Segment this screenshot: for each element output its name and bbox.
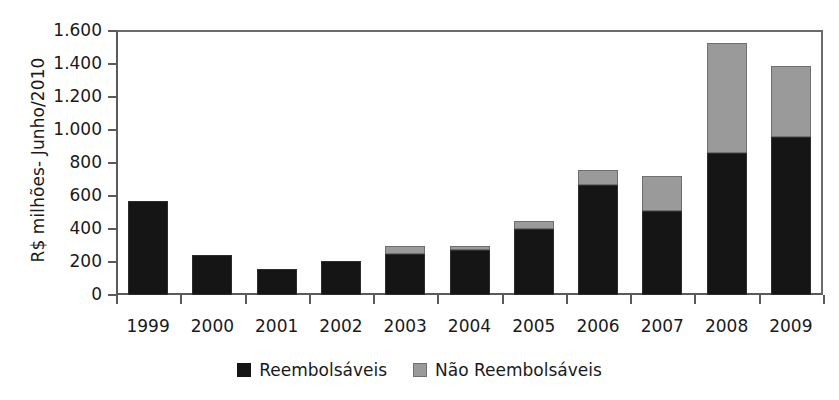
bar-2006 bbox=[578, 170, 618, 295]
bar-segment-reembolsaveis bbox=[257, 269, 297, 295]
bar-segment-reembolsaveis bbox=[771, 137, 811, 295]
chart-legend: Reembolsáveis Não Reembolsáveis bbox=[0, 360, 839, 380]
bar-segment-reembolsaveis bbox=[578, 185, 618, 295]
x-axis-tick bbox=[566, 295, 568, 304]
bar-segment-nao-reembolsaveis bbox=[514, 221, 554, 229]
x-axis-tick bbox=[630, 295, 632, 304]
bar-2001 bbox=[257, 269, 297, 295]
black-square-icon bbox=[237, 363, 251, 377]
bar-segment-reembolsaveis bbox=[707, 153, 747, 295]
x-axis-tick-label: 2008 bbox=[697, 316, 757, 336]
bar-segment-nao-reembolsaveis bbox=[385, 246, 425, 254]
x-axis-tick-label: 1999 bbox=[118, 316, 178, 336]
bar-1999 bbox=[128, 201, 168, 295]
y-axis-tick bbox=[108, 30, 117, 32]
y-axis-tick bbox=[108, 228, 117, 230]
x-axis-tick bbox=[759, 295, 761, 304]
x-axis-tick bbox=[823, 295, 825, 304]
x-axis-tick bbox=[373, 295, 375, 304]
y-axis-tick-label: 400 bbox=[0, 220, 102, 237]
bar-2008 bbox=[707, 43, 747, 295]
bar-2003 bbox=[385, 246, 425, 296]
y-axis-tick bbox=[108, 261, 117, 263]
x-axis-tick-label: 2006 bbox=[568, 316, 628, 336]
x-axis-tick-label: 2004 bbox=[440, 316, 500, 336]
bar-segment-reembolsaveis bbox=[642, 211, 682, 295]
bar-chart: R$ milhões- Junho/2010 1.6001.4001.2001.… bbox=[0, 0, 839, 400]
bar-2009 bbox=[771, 66, 811, 295]
bar-2004 bbox=[450, 246, 490, 295]
bar-segment-nao-reembolsaveis bbox=[578, 170, 618, 185]
x-axis-tick bbox=[309, 295, 311, 304]
bar-segment-nao-reembolsaveis bbox=[707, 43, 747, 153]
y-axis-tick-label: 800 bbox=[0, 154, 102, 171]
y-axis-tick-label: 0 bbox=[0, 286, 102, 303]
x-axis-tick bbox=[116, 295, 118, 304]
y-axis-tick-label: 1.200 bbox=[0, 88, 102, 105]
bar-segment-nao-reembolsaveis bbox=[642, 176, 682, 211]
y-axis-tick-label: 1.600 bbox=[0, 22, 102, 39]
bar-2007 bbox=[642, 176, 682, 295]
x-axis-tick-label: 2000 bbox=[182, 316, 242, 336]
bar-segment-reembolsaveis bbox=[514, 229, 554, 295]
x-axis-tick-label: 2001 bbox=[247, 316, 307, 336]
x-axis-tick bbox=[180, 295, 182, 304]
bar-segment-reembolsaveis bbox=[385, 254, 425, 295]
x-axis-tick-label: 2005 bbox=[504, 316, 564, 336]
bar-segment-nao-reembolsaveis bbox=[771, 66, 811, 136]
y-axis-tick-label: 200 bbox=[0, 253, 102, 270]
legend-label-nao-reembolsaveis: Não Reembolsáveis bbox=[435, 360, 602, 380]
bar-2002 bbox=[321, 261, 361, 295]
bar-segment-reembolsaveis bbox=[192, 255, 232, 295]
legend-item-nao-reembolsaveis: Não Reembolsáveis bbox=[413, 360, 602, 380]
y-axis-tick-label: 600 bbox=[0, 187, 102, 204]
bar-2005 bbox=[514, 221, 554, 295]
y-axis-tick-label: 1.400 bbox=[0, 55, 102, 72]
y-axis-tick-label: 1.000 bbox=[0, 121, 102, 138]
y-axis-tick bbox=[108, 162, 117, 164]
y-axis-tick bbox=[108, 63, 117, 65]
x-axis-tick-label: 2003 bbox=[375, 316, 435, 336]
x-axis-tick bbox=[694, 295, 696, 304]
bar-segment-reembolsaveis bbox=[450, 250, 490, 295]
x-axis-tick bbox=[437, 295, 439, 304]
bar-segment-reembolsaveis bbox=[321, 261, 361, 295]
y-axis-tick bbox=[108, 96, 117, 98]
bar-2000 bbox=[192, 255, 232, 295]
bar-segment-reembolsaveis bbox=[128, 201, 168, 295]
x-axis-tick bbox=[245, 295, 247, 304]
gray-square-icon bbox=[413, 363, 427, 377]
legend-label-reembolsaveis: Reembolsáveis bbox=[259, 360, 387, 380]
x-axis-tick bbox=[502, 295, 504, 304]
y-axis-tick bbox=[108, 195, 117, 197]
x-axis-tick-label: 2002 bbox=[311, 316, 371, 336]
y-axis-tick bbox=[108, 129, 117, 131]
x-axis-tick-label: 2007 bbox=[632, 316, 692, 336]
x-axis-tick-label: 2009 bbox=[761, 316, 821, 336]
legend-item-reembolsaveis: Reembolsáveis bbox=[237, 360, 387, 380]
